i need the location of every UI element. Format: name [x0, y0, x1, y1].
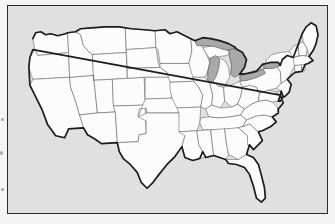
state-south-dakota	[126, 48, 160, 69]
figure-container	[0, 0, 335, 224]
scan-artifact-speck	[1, 188, 4, 191]
state-colorado	[112, 77, 145, 106]
state-minnesota	[155, 30, 192, 64]
state-polygons-group	[29, 23, 318, 202]
state-arizona	[80, 112, 118, 144]
state-arkansas	[177, 107, 201, 132]
state-utah	[93, 75, 115, 113]
state-florida	[226, 155, 266, 203]
map-frame-border	[7, 5, 328, 214]
scan-artifact-speck	[0, 151, 3, 155]
us-outline-map	[8, 6, 327, 213]
scan-artifact-speck	[1, 118, 4, 121]
state-kansas	[145, 77, 172, 99]
state-washington	[33, 32, 69, 56]
